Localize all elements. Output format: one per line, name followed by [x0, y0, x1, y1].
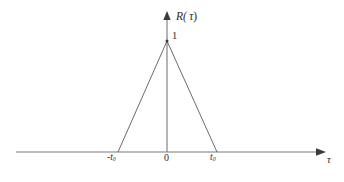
- x-tick-left-subscript: 0: [113, 156, 116, 162]
- x-axis-label: τ: [327, 155, 331, 166]
- peak-value-label: 1: [172, 31, 177, 42]
- y-axis-label: R( τ): [176, 11, 197, 23]
- x-tick-label-origin: 0: [164, 153, 169, 163]
- curve-rising-edge: [118, 41, 167, 152]
- x-tick-label-positive-t0: t0: [210, 153, 216, 163]
- plot-canvas: [0, 0, 344, 182]
- x-axis-arrow-icon: [316, 148, 326, 156]
- x-tick-right-subscript: 0: [213, 156, 216, 162]
- y-axis-label-close: ): [193, 10, 197, 22]
- y-axis-label-function: R(: [176, 10, 187, 22]
- y-axis-arrow-icon: [163, 11, 170, 20]
- peak-marker: [166, 40, 169, 43]
- curve-falling-edge: [167, 41, 217, 152]
- figure-container: R( τ) 1 -t0 0 t0 τ: [0, 0, 344, 182]
- x-tick-label-negative-t0: -t0: [107, 153, 116, 163]
